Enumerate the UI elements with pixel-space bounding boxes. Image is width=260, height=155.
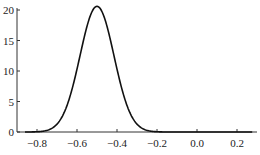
x-tick-label: 0.0	[190, 137, 204, 149]
x-tick-label: −0.4	[107, 137, 127, 149]
y-tick-label: 0	[9, 126, 15, 138]
y-tick-label: 10	[3, 65, 15, 77]
y-tick-label: 5	[9, 96, 15, 108]
density-chart: 05101520−0.8−0.6−0.4−0.20.00.2	[0, 0, 260, 155]
x-tick-label: −0.6	[67, 137, 87, 149]
y-tick-label: 15	[3, 35, 15, 47]
x-tick-label: 0.2	[230, 137, 244, 149]
x-tick-label: −0.2	[147, 137, 167, 149]
axes: 05101520−0.8−0.6−0.4−0.20.00.2	[3, 4, 257, 149]
density-curve	[25, 6, 252, 132]
y-tick-label: 20	[3, 4, 15, 16]
x-tick-label: −0.8	[27, 137, 47, 149]
